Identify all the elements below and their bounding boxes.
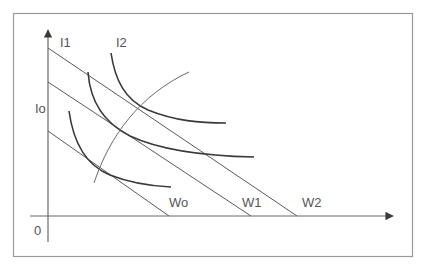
label-i2: I2 — [116, 35, 127, 50]
label-w1: W1 — [242, 195, 262, 210]
label-w0: Wo — [169, 195, 188, 210]
indifference-curve-i0 — [69, 111, 171, 187]
budget-line-w2 — [48, 48, 297, 216]
diagram-canvas: I1 I2 Io 0 Wo W1 W2 — [0, 0, 422, 266]
label-w2: W2 — [302, 195, 322, 210]
label-i1: I1 — [60, 35, 71, 50]
label-i0: Io — [35, 101, 46, 116]
budget-line-w1 — [48, 82, 251, 216]
origin-label: 0 — [34, 223, 41, 238]
diagram-frame — [14, 14, 413, 257]
indifference-curve-i1 — [88, 72, 254, 157]
indifference-curve-i2 — [111, 53, 226, 123]
